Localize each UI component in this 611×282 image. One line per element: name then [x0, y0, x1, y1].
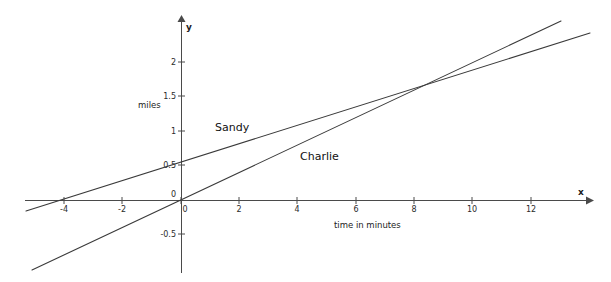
y-tick-label-1: 1: [171, 127, 176, 136]
y-axis-arrow-icon: [178, 15, 186, 22]
x-axis-arrow-icon: [586, 197, 594, 205]
y-axis-unit-label: miles: [138, 100, 161, 110]
x-tick-label-minus-4: -4: [60, 205, 68, 214]
y-axis-name: y: [186, 22, 192, 32]
x-tick-label-12: 12: [526, 205, 536, 214]
x-axis-unit-label: time in minutes: [334, 220, 401, 230]
series-label-sandy: Sandy: [215, 121, 250, 134]
graph-figure: x -4 -2 0 2 4 6 8 10 12 time: [0, 0, 611, 282]
x-tick-label-6: 6: [353, 205, 358, 214]
y-tick-label-2: 2: [171, 58, 176, 67]
x-axis-name: x: [578, 187, 584, 197]
y-tick-label-minus-0-5: -0.5: [160, 230, 176, 239]
y-tick-label-0: 0: [171, 190, 176, 199]
x-tick-label-4: 4: [294, 205, 299, 214]
x-tick-label-2: 2: [236, 205, 241, 214]
x-tick-label-8: 8: [411, 205, 416, 214]
x-tick-label-minus-2: -2: [118, 205, 126, 214]
y-tick-label-1-5: 1.5: [163, 92, 176, 101]
x-tick-label-10: 10: [467, 205, 477, 214]
x-tick-label-0: 0: [182, 205, 187, 214]
y-axis-group: y 2 1.5 1 0.5 0 -0.5 miles: [138, 15, 192, 273]
coordinate-plane: x -4 -2 0 2 4 6 8 10 12 time: [0, 0, 611, 282]
x-axis-group: x -4 -2 0 2 4 6 8 10 12 time: [25, 187, 594, 230]
series-label-charlie: Charlie: [300, 150, 339, 163]
series-line-charlie: [32, 21, 561, 270]
series-line-sandy: [26, 33, 590, 211]
